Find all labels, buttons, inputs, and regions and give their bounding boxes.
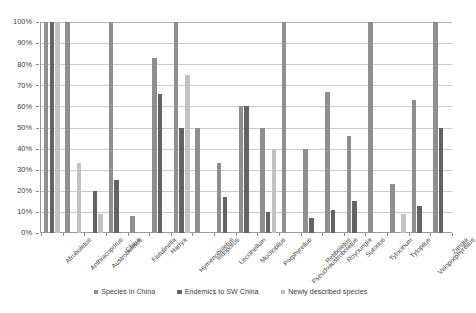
bar	[352, 201, 357, 233]
y-axis-tick-label: 100%	[13, 18, 32, 25]
y-axis-tick-label: 90%	[17, 39, 32, 46]
y-axis-tick-mark	[36, 191, 39, 192]
bar-group	[192, 22, 214, 233]
bar	[439, 128, 444, 234]
bar-group	[279, 22, 301, 233]
legend-swatch-icon	[177, 290, 182, 295]
y-axis-tick-label: 50%	[17, 124, 32, 131]
y-axis-tick-mark	[36, 212, 39, 213]
bar-group	[430, 22, 452, 233]
bar	[223, 197, 228, 233]
legend-label: Species in China	[101, 288, 155, 296]
y-axis-tick-mark	[36, 85, 39, 86]
y-axis-tick-label: 80%	[17, 61, 32, 68]
bar-group	[236, 22, 258, 233]
x-axis-category-label: Afroboletus	[64, 236, 93, 265]
y-axis-tick-label: 30%	[17, 166, 32, 173]
bar-group	[128, 22, 150, 233]
bar-group	[106, 22, 128, 233]
bar	[195, 128, 200, 234]
bar	[65, 22, 70, 233]
bar	[260, 128, 265, 234]
chart-legend: Species in ChinaEndemics to SW ChinaNewl…	[0, 288, 461, 296]
bar-group	[257, 22, 279, 233]
bar	[217, 163, 222, 233]
bar-group	[149, 22, 171, 233]
bar	[412, 100, 417, 233]
bar	[174, 22, 179, 233]
y-axis-tick-label: 60%	[17, 103, 32, 110]
y-axis-tick-mark	[36, 170, 39, 171]
bar-group	[171, 22, 193, 233]
bar	[331, 210, 336, 233]
y-axis-tick-label: 70%	[17, 82, 32, 89]
bar	[109, 22, 114, 233]
x-axis-category-label: Anthracoporus	[89, 236, 124, 271]
bar	[158, 94, 163, 233]
bar	[282, 22, 287, 233]
x-axis-category-label: Tylocinum	[388, 236, 414, 262]
bar-groups	[41, 22, 452, 233]
bar	[401, 214, 406, 233]
bar	[98, 214, 103, 233]
bar-group	[387, 22, 409, 233]
bar-group	[344, 22, 366, 233]
legend-item[interactable]: Newly described species	[281, 288, 368, 296]
bar-group	[214, 22, 236, 233]
bar	[390, 184, 395, 233]
bar	[309, 218, 314, 233]
bar	[272, 149, 277, 233]
bar	[239, 106, 244, 233]
legend-label: Newly described species	[288, 288, 367, 296]
bar-group	[41, 22, 63, 233]
x-axis-labels: AfroboletusAnthracoporusAustroboletusChi…	[0, 234, 461, 286]
legend-item[interactable]: Species in China	[94, 288, 155, 296]
legend-swatch-icon	[94, 290, 99, 295]
bar-group	[409, 22, 431, 233]
bar	[368, 22, 373, 233]
y-axis-tick-mark	[36, 22, 39, 23]
y-axis-tick-label: 20%	[17, 187, 32, 194]
bar-group	[365, 22, 387, 233]
bar	[50, 22, 55, 233]
bar	[244, 106, 249, 233]
y-axis-tick-mark	[36, 43, 39, 44]
bar	[417, 206, 422, 233]
bar	[266, 212, 271, 233]
y-axis-tick-mark	[36, 128, 39, 129]
bar	[77, 163, 82, 233]
bar	[179, 128, 184, 234]
bar	[347, 136, 352, 233]
bar	[185, 75, 190, 233]
bar-group	[301, 22, 323, 233]
y-axis-tick-mark	[36, 149, 39, 150]
legend-label: Endemics to SW China	[185, 288, 259, 296]
bar	[152, 58, 157, 233]
y-axis-tick-label: 40%	[17, 145, 32, 152]
bar	[93, 191, 98, 233]
legend-item[interactable]: Endemics to SW China	[177, 288, 258, 296]
bar-group	[63, 22, 85, 233]
bar	[44, 22, 49, 233]
x-axis-category-label: Veloporphyrellus	[436, 236, 475, 275]
bar	[114, 180, 119, 233]
bar	[325, 92, 330, 233]
bar	[130, 216, 135, 233]
bar	[433, 22, 438, 233]
y-axis-tick-mark	[36, 64, 39, 65]
legend-swatch-icon	[281, 290, 286, 295]
bar-group	[84, 22, 106, 233]
y-axis: 100%90%80%70%60%50%40%30%20%10%0%	[0, 22, 36, 233]
bar-group	[322, 22, 344, 233]
y-axis-tick-mark	[36, 106, 39, 107]
bar	[55, 22, 60, 233]
bar	[303, 149, 308, 233]
y-axis-tick-label: 10%	[17, 208, 32, 215]
